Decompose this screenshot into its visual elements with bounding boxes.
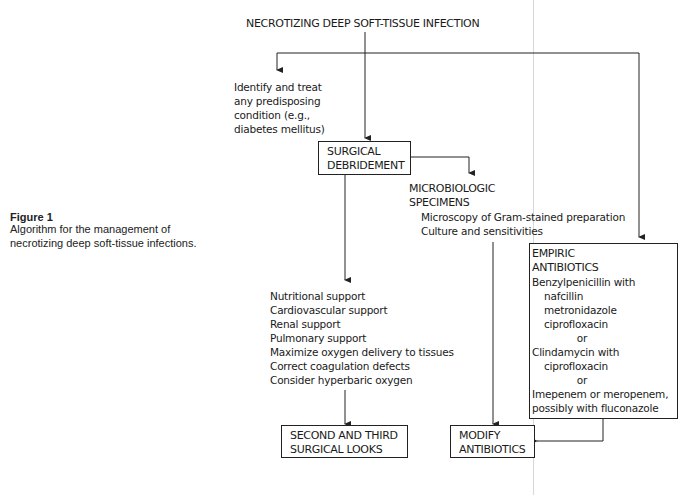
modify-line: MODIFY <box>459 429 534 443</box>
support-item: Cardiovascular support <box>270 303 454 317</box>
support-item: Nutritional support <box>270 289 454 303</box>
caption-title: Figure 1 <box>10 211 197 223</box>
empiric-drug: ciprofloxacin <box>532 359 677 373</box>
microbiologic-item: Microscopy of Gram-stained preparation <box>409 210 625 224</box>
empiric-option: Clindamycin with <box>532 345 677 359</box>
identify-line: any predisposing <box>234 94 325 108</box>
edge-empiric-modify <box>537 418 603 441</box>
node-identify: Identify and treat any predisposing cond… <box>234 80 325 136</box>
empiric-heading: ANTIBIOTICS <box>532 261 677 275</box>
empiric-option: Imepenem or meropenem, <box>532 387 677 401</box>
edge-root-identify <box>277 53 365 70</box>
empiric-or: or <box>532 373 632 387</box>
support-item: Pulmonary support <box>270 331 454 345</box>
debridement-line: DEBRIDEMENT <box>327 159 410 173</box>
node-modify-antibiotics: MODIFY ANTIBIOTICS <box>450 425 535 458</box>
modify-line: ANTIBIOTICS <box>459 443 534 457</box>
identify-line: diabetes mellitus) <box>234 122 325 136</box>
support-item: Consider hyperbaric oxygen <box>270 373 454 387</box>
empiric-drug: nafcillin <box>532 289 677 303</box>
second-looks-line: SECOND AND THIRD <box>290 429 407 443</box>
node-second-looks: SECOND AND THIRD SURGICAL LOOKS <box>281 425 408 458</box>
identify-line: Identify and treat <box>234 80 325 94</box>
empiric-option: Benzylpenicillin with <box>532 275 677 289</box>
empiric-drug: metronidazole <box>532 303 677 317</box>
support-item: Correct coagulation defects <box>270 359 454 373</box>
node-empiric-antibiotics: EMPIRIC ANTIBIOTICS Benzylpenicillin wit… <box>529 243 678 419</box>
node-supportive-care: Nutritional support Cardiovascular suppo… <box>270 289 454 387</box>
figure-caption: Figure 1 Algorithm for the management of… <box>10 211 197 250</box>
identify-line: condition (e.g., <box>234 108 325 122</box>
node-debridement: SURGICAL DEBRIDEMENT <box>318 141 411 175</box>
second-looks-line: SURGICAL LOOKS <box>290 443 407 457</box>
edge-debridement-microbiologic <box>410 157 469 173</box>
debridement-line: SURGICAL <box>327 145 410 159</box>
node-root: NECROTIZING DEEP SOFT-TISSUE INFECTION <box>246 17 479 31</box>
empiric-option: possibly with fluconazole <box>532 401 677 415</box>
support-item: Renal support <box>270 317 454 331</box>
microbiologic-heading: SPECIMENS <box>409 196 625 210</box>
node-microbiologic: MICROBIOLOGIC SPECIMENS Microscopy of Gr… <box>409 182 625 238</box>
empiric-or: or <box>532 331 632 345</box>
microbiologic-item: Culture and sensitivities <box>409 224 625 238</box>
root-label: NECROTIZING DEEP SOFT-TISSUE INFECTION <box>246 17 479 30</box>
support-item: Maximize oxygen delivery to tissues <box>270 345 454 359</box>
empiric-drug: ciprofloxacin <box>532 317 677 331</box>
caption-line: necrotizing deep soft-tissue infections. <box>10 237 197 251</box>
microbiologic-heading: MICROBIOLOGIC <box>409 182 625 196</box>
caption-line: Algorithm for the management of <box>10 223 197 237</box>
empiric-heading: EMPIRIC <box>532 247 677 261</box>
